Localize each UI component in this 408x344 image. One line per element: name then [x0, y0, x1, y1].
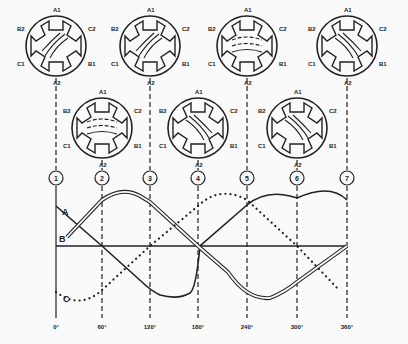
svg-text:A1: A1: [244, 7, 252, 13]
wave-labels: A B C: [59, 207, 70, 304]
motor-step-5: [217, 16, 277, 76]
motor-step-2: [72, 98, 132, 158]
svg-text:B1: B1: [88, 61, 96, 67]
motor-step-7: [317, 16, 377, 76]
step-marker-5: 5: [245, 175, 249, 182]
step-lines: [56, 78, 347, 318]
svg-text:C1: C1: [17, 61, 25, 67]
svg-text:B1: B1: [379, 61, 387, 67]
svg-text:B2: B2: [208, 26, 216, 32]
step-markers: 1 2 3 4 5 6 7: [49, 171, 354, 185]
svg-text:C2: C2: [379, 26, 387, 32]
step-marker-3: 3: [148, 175, 152, 182]
svg-text:C1: C1: [308, 61, 316, 67]
wave-label-b: B: [59, 234, 66, 244]
svg-text:C2: C2: [134, 108, 142, 114]
svg-text:180°: 180°: [192, 324, 205, 330]
motor-step-3: [120, 16, 180, 76]
svg-text:B2: B2: [308, 26, 316, 32]
step-marker-6: 6: [295, 175, 299, 182]
svg-text:B2: B2: [111, 26, 119, 32]
svg-text:A2: A2: [344, 80, 352, 86]
svg-text:A1: A1: [53, 7, 61, 13]
svg-text:A2: A2: [99, 162, 107, 168]
wave-label-a: A: [62, 207, 69, 217]
svg-text:60°: 60°: [97, 324, 107, 330]
motor-step-1: [26, 16, 86, 76]
svg-text:B2: B2: [159, 108, 167, 114]
svg-text:0°: 0°: [53, 324, 59, 330]
svg-text:C1: C1: [63, 143, 71, 149]
svg-text:C1: C1: [111, 61, 119, 67]
svg-text:B2: B2: [258, 108, 266, 114]
svg-text:A2: A2: [53, 80, 61, 86]
step-marker-1: 1: [54, 175, 58, 182]
svg-text:B1: B1: [182, 61, 190, 67]
waveform-a: [56, 191, 347, 297]
stepper-motor-phase-diagram: A1 C2 B1 A2 C1 B2 A1 C2 B1 A2 C1 B2 A1 C…: [0, 0, 408, 344]
svg-text:B2: B2: [17, 26, 25, 32]
wave-label-c: C: [63, 294, 70, 304]
svg-text:A1: A1: [99, 89, 107, 95]
svg-text:B2: B2: [63, 108, 71, 114]
motor-step-4: [168, 98, 228, 158]
svg-text:A1: A1: [195, 89, 203, 95]
angle-axis-labels: 0° 60° 120° 180° 240° 300° 360°: [53, 324, 354, 330]
motor-step-6: [267, 98, 327, 158]
svg-text:C1: C1: [258, 143, 266, 149]
svg-text:360°: 360°: [341, 324, 354, 330]
svg-text:B1: B1: [329, 143, 337, 149]
svg-text:C2: C2: [279, 26, 287, 32]
svg-text:A2: A2: [294, 162, 302, 168]
svg-text:C2: C2: [182, 26, 190, 32]
svg-text:120°: 120°: [144, 324, 157, 330]
step-marker-4: 4: [196, 175, 200, 182]
svg-text:C2: C2: [329, 108, 337, 114]
svg-text:240°: 240°: [241, 324, 254, 330]
svg-text:B1: B1: [134, 143, 142, 149]
step-marker-7: 7: [345, 175, 349, 182]
step-marker-2: 2: [100, 175, 104, 182]
svg-text:A2: A2: [195, 162, 203, 168]
svg-text:A1: A1: [147, 7, 155, 13]
svg-text:300°: 300°: [291, 324, 304, 330]
svg-text:C1: C1: [208, 61, 216, 67]
svg-text:B1: B1: [279, 61, 287, 67]
svg-text:A1: A1: [344, 7, 352, 13]
svg-text:A2: A2: [147, 80, 155, 86]
svg-text:C2: C2: [88, 26, 96, 32]
svg-text:A1: A1: [294, 89, 302, 95]
svg-text:B1: B1: [230, 143, 238, 149]
svg-text:A2: A2: [244, 80, 252, 86]
svg-text:C2: C2: [230, 108, 238, 114]
svg-text:C1: C1: [159, 143, 167, 149]
